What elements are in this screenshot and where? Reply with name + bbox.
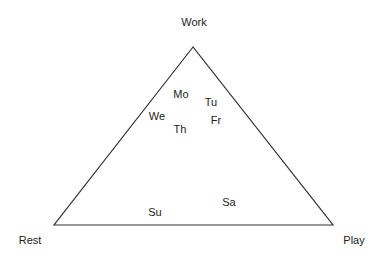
vertex-label-work: Work: [181, 16, 206, 28]
vertex-label-rest: Rest: [19, 234, 42, 246]
day-label-fr: Fr: [211, 114, 221, 126]
day-label-sa: Sa: [222, 196, 235, 208]
ternary-triangle: [0, 0, 382, 262]
day-label-th: Th: [174, 123, 187, 135]
day-label-tu: Tu: [205, 96, 217, 108]
day-label-we: We: [149, 110, 165, 122]
day-label-su: Su: [148, 206, 161, 218]
vertex-label-play: Play: [343, 234, 364, 246]
triangle-outline: [54, 47, 333, 225]
day-label-mo: Mo: [173, 88, 188, 100]
